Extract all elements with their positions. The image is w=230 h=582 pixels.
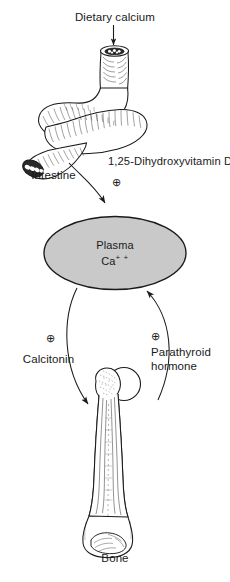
arrow-deposition-calcitonin bbox=[67, 288, 88, 404]
label-calcium-element: Ca bbox=[101, 255, 115, 267]
label-parathyroid-line1: Parathyroid bbox=[151, 346, 230, 360]
diagram-canvas bbox=[0, 0, 230, 582]
label-calcium-charge: + + bbox=[115, 253, 128, 262]
bone-illustration bbox=[83, 368, 141, 558]
calcium-regulation-diagram: Dietary calcium Intestine 1,25-Dihydroxy… bbox=[0, 0, 230, 582]
plus-sign-parathyroid-icon: ⊕ bbox=[151, 330, 160, 343]
label-calcitonin: Calcitonin bbox=[0, 353, 97, 367]
label-intestine: Intestine bbox=[0, 169, 107, 183]
label-bone: Bone bbox=[0, 552, 230, 566]
label-dietary-calcium: Dietary calcium bbox=[0, 11, 230, 25]
plus-sign-vitamin-d-icon: ⊕ bbox=[112, 176, 121, 189]
label-parathyroid-hormone: Parathyroid hormone bbox=[151, 346, 230, 373]
plus-sign-calcitonin-icon: ⊕ bbox=[46, 332, 55, 345]
label-dihydroxyvitamin-d: 1,25-Dihydroxyvitamin D bbox=[108, 155, 230, 168]
label-parathyroid-line2: hormone bbox=[151, 360, 230, 374]
label-plasma-calcium: Plasma Ca+ + bbox=[0, 239, 230, 268]
label-plasma-ion: Ca+ + bbox=[0, 253, 230, 268]
label-plasma-line1: Plasma bbox=[96, 239, 133, 251]
